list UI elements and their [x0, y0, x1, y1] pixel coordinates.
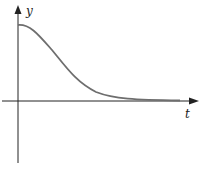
x-axis-label: t — [185, 108, 190, 120]
chart — [0, 0, 200, 171]
y-axis-arrow-icon — [15, 5, 22, 14]
x-axis-arrow-icon — [189, 98, 199, 105]
decay-curve — [18, 25, 180, 101]
y-axis-label: y — [26, 5, 33, 17]
